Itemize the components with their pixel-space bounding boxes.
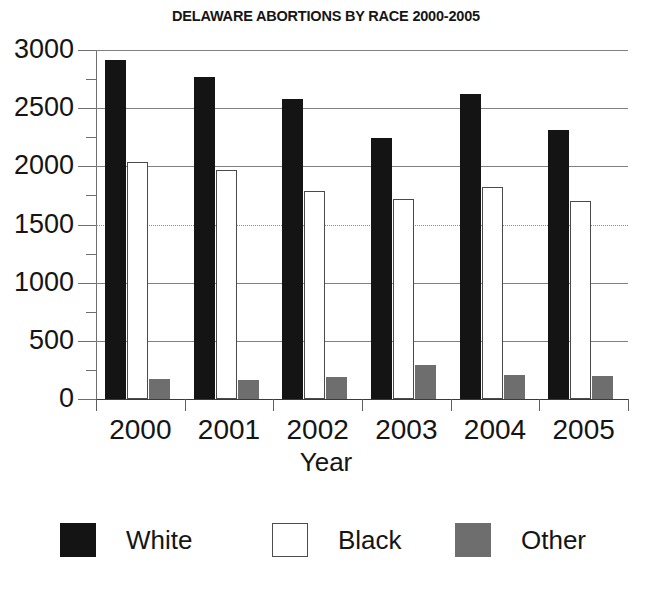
legend-swatch-white-icon (60, 523, 96, 557)
legend-entry-other[interactable]: Other (455, 518, 586, 562)
bar-black-2000 (127, 162, 148, 399)
legend-swatch-other-icon (455, 523, 491, 557)
y-tick-label-1500: 1500 (0, 211, 74, 238)
x-label-2003: 2003 (362, 415, 451, 445)
bar-group-2002 (282, 50, 347, 399)
x-label-2004: 2004 (451, 415, 540, 445)
y-tick-1000 (78, 283, 97, 284)
bar-group-2003 (371, 50, 436, 399)
y-tick-2500 (78, 108, 97, 109)
x-label-2001: 2001 (185, 415, 274, 445)
x-label-2002: 2002 (273, 415, 362, 445)
plot-area (96, 50, 628, 399)
y-tick-label-2500: 2500 (0, 94, 74, 121)
bar-white-2005 (548, 130, 569, 399)
y-tick-1500 (78, 225, 97, 226)
legend-label-other: Other (521, 525, 586, 555)
y-tick-label-3000: 3000 (0, 36, 74, 63)
y-tick-label-500: 500 (0, 327, 74, 354)
x-tick-2001 (273, 399, 274, 411)
bar-white-2000 (105, 60, 126, 399)
legend-swatch-black-icon (272, 523, 308, 557)
bar-white-2003 (371, 138, 392, 399)
y-tick-2000 (78, 166, 97, 167)
legend-entry-black[interactable]: Black (272, 518, 402, 562)
bar-other-2004 (504, 375, 525, 399)
y-tick-0 (78, 399, 97, 400)
y-tick-500 (78, 341, 97, 342)
x-label-2000: 2000 (96, 415, 185, 445)
bar-black-2003 (393, 199, 414, 399)
bar-white-2002 (282, 99, 303, 399)
chart-legend: WhiteBlackOther (0, 518, 652, 574)
bar-group-2004 (460, 50, 525, 399)
bar-white-2001 (194, 77, 215, 399)
x-tick-2005 (628, 399, 629, 411)
bar-group-2001 (194, 50, 259, 399)
bar-other-2002 (326, 377, 347, 399)
bar-black-2002 (304, 191, 325, 399)
y-tick-label-2000: 2000 (0, 152, 74, 179)
y-tick-3000 (78, 50, 97, 51)
bar-black-2005 (570, 201, 591, 399)
x-tick-2002 (362, 399, 363, 411)
legend-label-white: White (126, 525, 192, 555)
bar-other-2001 (238, 380, 259, 399)
chart-title: DELAWARE ABORTIONS BY RACE 2000-2005 (0, 8, 652, 24)
bar-other-2000 (149, 379, 170, 399)
y-tick-label-0: 0 (0, 385, 74, 412)
bar-other-2003 (415, 365, 436, 399)
x-tick-origin (96, 399, 97, 411)
x-tick-2003 (451, 399, 452, 411)
x-tick-2000 (185, 399, 186, 411)
bar-group-2005 (548, 50, 613, 399)
y-tick-label-1000: 1000 (0, 269, 74, 296)
bar-group-2000 (105, 50, 170, 399)
x-tick-2004 (539, 399, 540, 411)
bar-black-2001 (216, 170, 237, 399)
bar-white-2004 (460, 94, 481, 399)
legend-label-black: Black (338, 525, 402, 555)
bar-other-2005 (592, 376, 613, 399)
legend-entry-white[interactable]: White (60, 518, 192, 562)
x-axis-title: Year (0, 447, 652, 478)
bar-black-2004 (482, 187, 503, 399)
bar-chart: DELAWARE ABORTIONS BY RACE 2000-2005 050… (0, 0, 652, 600)
x-label-2005: 2005 (539, 415, 628, 445)
